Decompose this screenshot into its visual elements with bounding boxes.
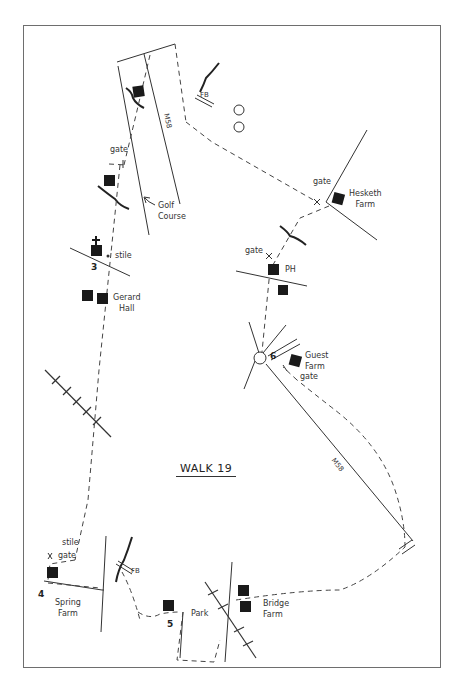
church-icon (91, 245, 102, 256)
label-ph: PH (285, 264, 296, 275)
label-bridge-farm: Bridge Farm (263, 598, 289, 620)
label-gate: gate (110, 144, 128, 155)
stream (280, 226, 306, 245)
label-gerard-hall: Gerard Hall (113, 292, 141, 314)
label-guest-farm: Guest Farm (305, 350, 329, 372)
waypoint-4: 4 (38, 589, 44, 599)
map-title: WALK 19 (176, 462, 236, 477)
waypoint-3: 3 (91, 262, 97, 272)
stream (98, 186, 129, 209)
roundabout-icon (254, 352, 266, 364)
label-stile: stile (115, 250, 132, 261)
m58-road (144, 54, 180, 204)
building-icon (104, 175, 115, 186)
waypoint-5: 5 (167, 619, 173, 629)
building-icon (289, 354, 302, 367)
stream (200, 63, 219, 92)
tree-icon (234, 122, 244, 132)
building-icon (163, 600, 174, 611)
label-footbridge: FB (131, 566, 140, 577)
label-gate: gate (300, 371, 318, 382)
label-gate: gate (58, 550, 76, 561)
label-footbridge: FB (200, 90, 209, 101)
building-icon (332, 192, 345, 205)
label-stile: stile (62, 537, 79, 548)
waypoint-6: 6 (270, 351, 276, 361)
building-icon (132, 85, 144, 97)
label-gate: gate (313, 176, 331, 187)
building-icon (268, 264, 279, 275)
building-icon (238, 585, 249, 596)
building-icon (97, 293, 108, 304)
label-park: Park (191, 608, 208, 619)
building-icon (47, 567, 58, 578)
label-hesketh-farm: Hesketh Farm (349, 188, 382, 210)
building-icon (240, 601, 251, 612)
tree-icon (234, 105, 244, 115)
building-icon (278, 285, 288, 295)
m58-road (266, 364, 413, 541)
walk-map (0, 0, 464, 692)
building-icon (82, 290, 93, 301)
label-spring-farm: Spring Farm (55, 597, 81, 619)
label-gate: gate (245, 245, 263, 256)
label-golf-course: Golf Course (158, 200, 186, 222)
